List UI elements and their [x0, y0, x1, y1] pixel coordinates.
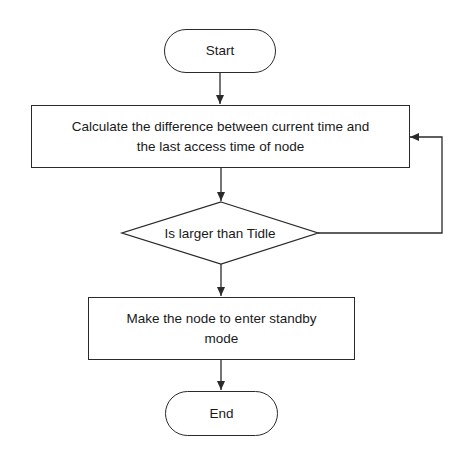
end-label: End — [209, 404, 233, 424]
decision-node: Is larger than Tidle — [122, 202, 318, 264]
calculate-label: Calculate the difference between current… — [72, 117, 370, 157]
standby-label: Make the node to enter standby mode — [127, 309, 317, 349]
flowchart-canvas: Start Calculate the difference between c… — [0, 0, 464, 457]
start-label: Start — [206, 41, 235, 61]
decision-label: Is larger than Tidle — [164, 226, 275, 241]
calculate-process-box: Calculate the difference between current… — [31, 105, 410, 168]
standby-process-box: Make the node to enter standby mode — [88, 297, 355, 360]
end-terminal: End — [165, 391, 278, 436]
start-terminal: Start — [164, 29, 276, 73]
